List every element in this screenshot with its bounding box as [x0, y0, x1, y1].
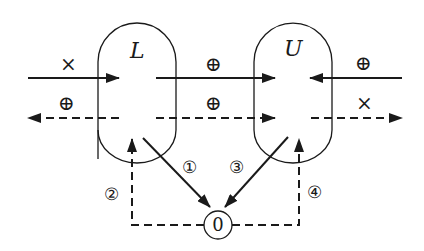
node-L-label: L — [129, 38, 145, 63]
node-U-bottom — [254, 130, 332, 163]
edge-zero-to-L — [132, 139, 204, 225]
label-3: ③ — [229, 157, 244, 177]
oplus-icon: ⊕ — [205, 52, 222, 76]
times-icon: × — [356, 91, 373, 115]
times-icon: × — [60, 52, 77, 76]
node-L-bottom — [98, 130, 176, 163]
oplus-icon: ⊕ — [355, 51, 372, 75]
label-2: ② — [104, 184, 119, 204]
oplus-icon: ⊕ — [205, 91, 222, 115]
lu-flow-diagram: L U × ⊕ ⊕ ⊕ ⊕ × ① ③ ② ④ 0 — [0, 0, 424, 251]
node-zero-label: 0 — [212, 214, 223, 235]
node-U-label: U — [284, 36, 304, 61]
edge-zero-to-U — [232, 139, 299, 225]
label-1: ① — [182, 157, 197, 177]
oplus-icon: ⊕ — [58, 91, 75, 115]
label-4: ④ — [307, 182, 322, 202]
edge-L-to-zero — [143, 138, 210, 207]
